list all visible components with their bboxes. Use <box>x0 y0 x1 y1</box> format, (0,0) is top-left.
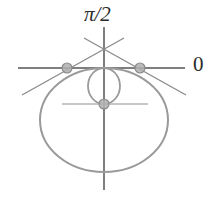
tangent-line-left <box>22 38 124 95</box>
horizontal-axis-label: 0 <box>193 54 204 75</box>
marker-inner-loop-bottom <box>99 99 109 109</box>
polar-plot-canvas <box>0 0 223 199</box>
marker-intersection-left <box>62 63 72 73</box>
polar-figure: π/2 0 <box>0 0 223 199</box>
marker-intersection-right <box>135 63 145 73</box>
vertical-axis-label: π/2 <box>84 4 111 25</box>
